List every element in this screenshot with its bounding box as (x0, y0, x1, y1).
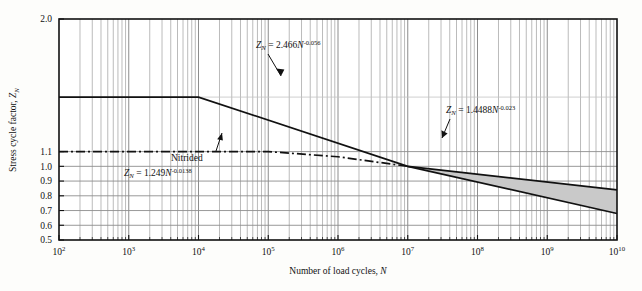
y-axis-title-sub: N (13, 88, 20, 94)
nitrided-label: Nitrided (171, 153, 203, 163)
y-tick-label: 0.8 (40, 191, 52, 201)
nitrided-eq-mid: = 1.249 (134, 168, 166, 178)
x-axis-title-plain: Number of load cycles, (289, 266, 380, 276)
y-tick-label: 0.9 (40, 176, 52, 186)
nitrided-eq-sup: -0.0138 (172, 167, 192, 174)
figure-container: 1021031041051061071081091010 2.01.11.00.… (0, 0, 642, 291)
lower-eq-mid: = 1.4488 (456, 105, 492, 115)
svg-text:Stress cycle factor, ZN: Stress cycle factor, ZN (8, 88, 20, 172)
y-axis-title-plain: Stress cycle factor, (8, 98, 18, 172)
upper-eq-sup: -0.056 (304, 39, 322, 46)
lower-eq-sup: -0.023 (498, 104, 515, 111)
y-tick-label: 1.1 (40, 147, 52, 157)
y-tick-label: 0.7 (40, 206, 52, 216)
upper-eq-mid: = 2.466 (266, 40, 298, 50)
y-tick-label: 2.0 (40, 14, 52, 24)
stress-cycle-factor-chart: 1021031041051061071081091010 2.01.11.00.… (0, 0, 642, 291)
svg-text:Number of load cycles, N: Number of load cycles, N (289, 266, 387, 276)
y-tick-label: 0.6 (40, 221, 52, 231)
x-axis-title-italic: N (379, 266, 387, 276)
x-axis-title: Number of load cycles, N (289, 266, 387, 276)
y-tick-label: 1.0 (40, 162, 52, 172)
y-axis-title: Stress cycle factor, ZN (8, 88, 20, 172)
y-tick-label: 0.5 (40, 235, 52, 245)
